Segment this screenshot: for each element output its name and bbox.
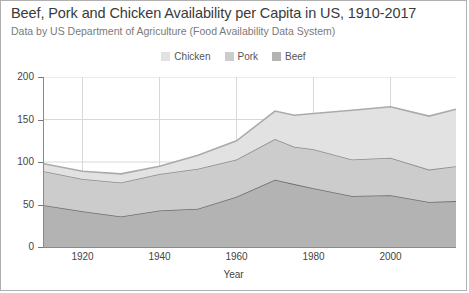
legend-item-chicken[interactable]: Chicken bbox=[161, 51, 210, 62]
chart-title: Beef, Pork and Chicken Availability per … bbox=[11, 5, 416, 21]
y-axis-tick-label: 100 bbox=[8, 156, 34, 167]
x-axis-tick-label: 1940 bbox=[140, 251, 180, 262]
x-axis-tick-label: 2000 bbox=[371, 251, 411, 262]
y-axis-tick-mark bbox=[38, 120, 43, 121]
legend-swatch-pork bbox=[225, 52, 234, 61]
x-axis-tick-label: 1960 bbox=[217, 251, 257, 262]
legend-item-beef[interactable]: Beef bbox=[272, 51, 306, 62]
y-axis-tick-mark bbox=[38, 77, 43, 78]
y-axis-tick-mark bbox=[38, 205, 43, 206]
y-axis-tick-label: 150 bbox=[8, 114, 34, 125]
legend-swatch-chicken bbox=[161, 52, 170, 61]
chart-card: Beef, Pork and Chicken Availability per … bbox=[0, 0, 467, 291]
x-axis-tick-label: 1980 bbox=[294, 251, 334, 262]
legend-label-chicken: Chicken bbox=[174, 51, 210, 62]
legend-label-beef: Beef bbox=[285, 51, 306, 62]
stacked-area-svg bbox=[44, 77, 456, 247]
y-axis-tick-mark bbox=[38, 247, 43, 248]
legend-item-pork[interactable]: Pork bbox=[225, 51, 259, 62]
legend-swatch-beef bbox=[272, 52, 281, 61]
y-axis-tick-label: 50 bbox=[8, 199, 34, 210]
legend-label-pork: Pork bbox=[238, 51, 259, 62]
y-axis-tick-label: 0 bbox=[8, 241, 34, 252]
x-axis-line bbox=[43, 247, 456, 248]
y-axis-tick-mark bbox=[38, 162, 43, 163]
x-axis-title: Year bbox=[1, 269, 466, 280]
plot-area bbox=[44, 77, 456, 247]
y-axis-tick-label: 200 bbox=[8, 71, 34, 82]
chart-legend: Chicken Pork Beef bbox=[1, 51, 466, 62]
chart-subtitle: Data by US Department of Agriculture (Fo… bbox=[11, 25, 335, 37]
x-axis-tick-label: 1920 bbox=[63, 251, 103, 262]
